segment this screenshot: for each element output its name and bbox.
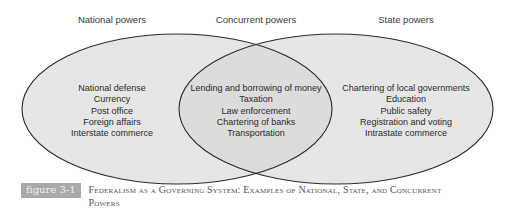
concurrent-powers-heading: Concurrent powers bbox=[216, 14, 296, 25]
list-item: Interstate commerce bbox=[71, 128, 153, 139]
national-powers-heading: National powers bbox=[78, 14, 146, 25]
list-item: Law enforcement bbox=[190, 106, 321, 117]
list-item: Chartering of local governments bbox=[342, 83, 470, 94]
list-item: Public safety bbox=[342, 106, 470, 117]
list-item: Foreign affairs bbox=[71, 117, 153, 128]
list-item: Post office bbox=[71, 106, 153, 117]
figure-caption: figure 3-1 Federalism as a Governing Sys… bbox=[21, 183, 469, 209]
list-item: Intrastate commerce bbox=[342, 128, 470, 139]
national-powers-list: National defense Currency Post office Fo… bbox=[71, 83, 153, 139]
state-powers-list: Chartering of local governments Educatio… bbox=[342, 83, 470, 139]
list-item: Chartering of banks bbox=[190, 117, 321, 128]
list-item: Taxation bbox=[190, 94, 321, 105]
concurrent-powers-list: Lending and borrowing of money Taxation … bbox=[190, 83, 321, 139]
list-item: Lending and borrowing of money bbox=[190, 83, 321, 94]
list-item: National defense bbox=[71, 83, 153, 94]
list-item: Transportation bbox=[190, 128, 321, 139]
list-item: Currency bbox=[71, 94, 153, 105]
list-item: Registration and voting bbox=[342, 117, 470, 128]
figure-label: figure 3-1 bbox=[21, 183, 81, 198]
state-powers-heading: State powers bbox=[378, 14, 433, 25]
figure-title: Federalism as a Governing System: Exampl… bbox=[89, 183, 469, 209]
list-item: Education bbox=[342, 94, 470, 105]
